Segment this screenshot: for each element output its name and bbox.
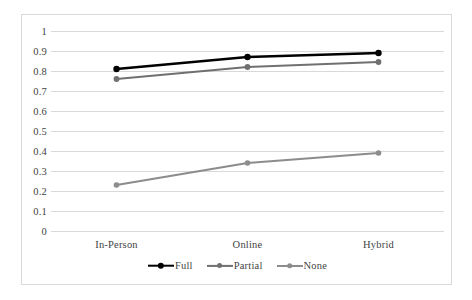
data-point-marker	[376, 150, 382, 156]
data-point-marker	[114, 182, 120, 188]
series-plot	[22, 15, 453, 286]
series-line	[117, 153, 379, 185]
series-none	[114, 150, 382, 188]
legend-marker-icon	[158, 262, 164, 268]
chart-legend: FullPartialNone	[22, 260, 453, 271]
legend-item-none[interactable]: None	[277, 260, 328, 271]
chart-container: 00.10.20.30.40.50.60.70.80.91 In-PersonO…	[21, 14, 452, 285]
legend-marker-icon	[217, 263, 223, 269]
legend-swatch-icon	[277, 261, 303, 271]
legend-marker-icon	[287, 263, 293, 269]
data-point-marker	[245, 64, 251, 70]
legend-swatch-icon	[148, 261, 174, 271]
series-partial	[114, 59, 382, 82]
legend-swatch-icon	[207, 261, 233, 271]
legend-item-full[interactable]: Full	[148, 260, 193, 271]
data-point-marker	[113, 66, 119, 72]
data-point-marker	[114, 76, 120, 82]
data-point-marker	[376, 59, 382, 65]
legend-item-partial[interactable]: Partial	[207, 260, 263, 271]
legend-label: Partial	[234, 260, 263, 271]
data-point-marker	[245, 160, 251, 166]
data-point-marker	[244, 54, 250, 60]
legend-label: Full	[175, 260, 193, 271]
data-point-marker	[375, 50, 381, 56]
legend-label: None	[304, 260, 328, 271]
